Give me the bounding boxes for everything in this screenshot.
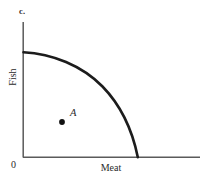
ppf-curve [24, 52, 138, 157]
y-axis-label: Fish [8, 60, 18, 94]
x-axis-label: Meat [86, 163, 136, 173]
origin-label: 0 [11, 160, 16, 170]
plot-canvas [0, 0, 210, 179]
ppf-figure-panel-c: c. Fish Meat 0 A [0, 0, 210, 179]
point-a-label: A [70, 108, 76, 119]
point-a-marker [59, 119, 65, 125]
panel-letter-label: c. [19, 7, 25, 16]
